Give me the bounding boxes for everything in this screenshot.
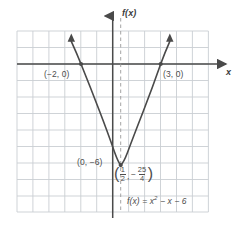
vertex-comma: ,	[127, 172, 129, 181]
curve-arrow-left	[68, 34, 75, 42]
equation-lhs: f(x) =	[127, 196, 150, 206]
vertex-close-paren: )	[148, 166, 153, 182]
label-vertex: ( 1 2 , − 25 4 )	[114, 166, 153, 182]
vertex-y-denominator: 4	[139, 174, 145, 183]
y-axis-label: f(x)	[122, 9, 136, 18]
curve-arrow-right	[166, 34, 173, 42]
vertex-y-numerator: 25	[137, 166, 147, 174]
label-x-intercept-left: (−2, 0)	[44, 70, 70, 79]
vertex-x-numerator: 1	[120, 166, 126, 174]
graph-canvas	[0, 0, 238, 225]
label-x-intercept-right: (3, 0)	[163, 70, 183, 79]
point-x-intercept-right	[159, 62, 163, 66]
equation-rest: − x − 6	[157, 196, 186, 206]
function-equation: f(x) = x2 − x − 6	[127, 195, 187, 205]
vertex-x-denominator: 2	[120, 174, 126, 183]
quadratic-graph-figure: f(x) x (−2, 0) (3, 0) (0, −6) ( 1 2 , − …	[0, 0, 238, 225]
vertex-fraction-y: 25 4	[137, 166, 147, 182]
label-y-intercept: (0, −6)	[77, 158, 103, 167]
vertex-minus-sign: −	[131, 170, 136, 179]
vertex-fraction-x: 1 2	[120, 166, 126, 182]
x-axis-label: x	[226, 68, 231, 77]
vertex-open-paren: (	[114, 166, 119, 182]
point-x-intercept-left	[79, 62, 83, 66]
